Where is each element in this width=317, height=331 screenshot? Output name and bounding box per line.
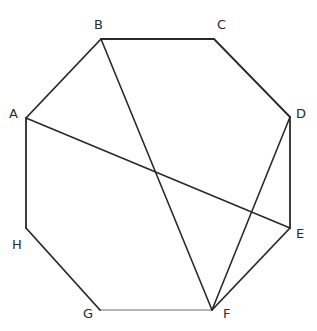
vertex-label-b: B <box>94 18 103 31</box>
octagon-figure <box>0 0 317 331</box>
diagonal-df <box>212 117 290 310</box>
octagon-edges <box>26 39 290 310</box>
diagonal-bf <box>101 39 212 310</box>
vertex-label-f: F <box>223 307 230 320</box>
vertex-label-a: A <box>9 107 18 120</box>
vertex-label-d: D <box>296 107 306 120</box>
diagonal-ae <box>26 118 290 228</box>
edge-cd <box>214 39 290 117</box>
edge-gh <box>26 228 100 310</box>
vertex-label-e: E <box>296 227 304 240</box>
edge-ab <box>26 39 101 118</box>
diagram-canvas: ABCDEFGH <box>0 0 317 331</box>
vertex-label-c: C <box>217 18 226 31</box>
vertex-label-g: G <box>83 307 93 320</box>
edge-ef <box>212 228 290 310</box>
vertex-label-h: H <box>12 238 22 251</box>
